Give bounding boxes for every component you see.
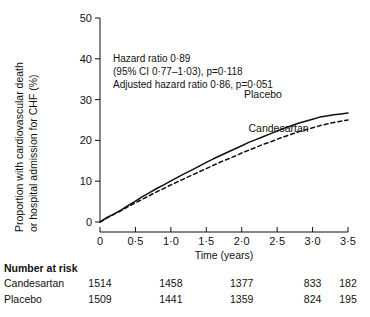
series-line-placebo — [100, 113, 348, 222]
x-axis-tick-label: 3·0 — [305, 235, 321, 247]
statistics-annotation-line: Adjusted hazard ratio 0·86, p=0·051 — [113, 79, 273, 90]
y-axis-tick-label: 40 — [80, 53, 92, 65]
x-axis-tick-label: 1·0 — [163, 235, 179, 247]
number-at-risk-table: Number at risk Candesartan 1514145813778… — [0, 262, 370, 317]
x-axis-tick-label: 3·5 — [340, 235, 356, 247]
risk-table-value: 824 — [304, 293, 322, 305]
plot-area: 0102030405000·51·01·52·02·53·03·5Time (y… — [0, 0, 370, 262]
risk-table-value: 182 — [339, 277, 357, 289]
risk-table-value: 195 — [339, 293, 357, 305]
x-axis-tick-label: 2·0 — [234, 235, 250, 247]
series-label-candesartan: Candesartan — [248, 122, 308, 134]
risk-table-value: 1514 — [88, 277, 111, 289]
x-axis-tick-label: 2·5 — [269, 235, 285, 247]
risk-table-title: Number at risk — [4, 262, 78, 274]
y-axis-tick-label: 20 — [80, 134, 92, 146]
risk-table-value: 1377 — [230, 277, 253, 289]
risk-table-value: 833 — [304, 277, 322, 289]
kaplan-meier-figure: Proportion with cardiovascular death or … — [0, 0, 370, 317]
risk-table-value: 1441 — [159, 293, 182, 305]
statistics-annotation-line: Hazard ratio 0·89 — [113, 53, 191, 64]
y-axis-tick-label: 10 — [80, 175, 92, 187]
risk-row-label: Placebo — [4, 293, 42, 305]
risk-row-label: Candesartan — [4, 277, 64, 289]
y-axis-tick-label: 30 — [80, 94, 92, 106]
series-line-candesartan — [100, 120, 348, 222]
x-axis-tick-label: 1·5 — [198, 235, 214, 247]
y-axis-tick-label: 0 — [86, 216, 92, 228]
risk-table-value: 1458 — [159, 277, 182, 289]
statistics-annotation-line: (95% CI 0·77–1·03), p=0·118 — [113, 66, 243, 77]
risk-table-row-placebo: Placebo 150914411359824195 — [0, 293, 370, 309]
risk-table-value: 1359 — [230, 293, 253, 305]
x-axis-tick-label: 0 — [97, 235, 103, 247]
risk-table-value: 1509 — [88, 293, 111, 305]
x-axis-tick-label: 0·5 — [127, 235, 143, 247]
risk-table-row-candesartan: Candesartan 151414581377833182 — [0, 277, 370, 293]
y-axis-tick-label: 50 — [80, 12, 92, 24]
x-axis-title: Time (years) — [195, 249, 254, 261]
